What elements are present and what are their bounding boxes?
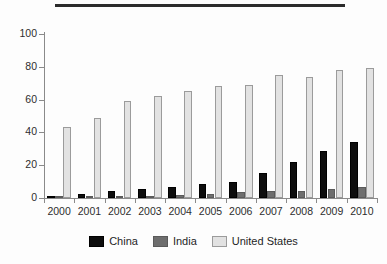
x-axis-tick-label: 2001	[72, 206, 106, 217]
x-axis-tick-label: 2006	[224, 206, 258, 217]
bar-united-states-2008	[306, 77, 314, 198]
bar-united-states-2010	[366, 68, 374, 198]
x-axis-tick-mark	[347, 198, 348, 203]
x-axis-tick-label: 2005	[194, 206, 228, 217]
x-axis-tick-label: 2010	[345, 206, 379, 217]
x-axis-line	[44, 198, 378, 199]
x-axis-tick-mark	[165, 198, 166, 203]
bar-china-2002	[108, 191, 116, 198]
bar-group	[138, 34, 162, 198]
x-axis-tick-mark	[195, 198, 196, 203]
bar-united-states-2005	[215, 86, 223, 198]
bar-group	[199, 34, 223, 198]
bar-india-2005	[207, 194, 215, 198]
x-axis-tick-label: 2000	[42, 206, 76, 217]
bar-group	[78, 34, 102, 198]
bar-china-2000	[47, 196, 55, 198]
bar-group	[320, 34, 344, 198]
y-axis-tick-label: 20	[3, 159, 37, 170]
bar-china-2006	[229, 182, 237, 198]
y-axis-tick-mark	[39, 165, 44, 166]
bar-united-states-2001	[94, 118, 102, 198]
legend-swatch-icon	[89, 236, 104, 247]
x-axis-tick-label: 2004	[163, 206, 197, 217]
y-axis-tick-label: 80	[3, 61, 37, 72]
x-axis-tick-mark	[105, 198, 106, 203]
chart-legend: ChinaIndiaUnited States	[0, 236, 387, 247]
legend-label: India	[173, 236, 197, 247]
bar-group	[259, 34, 283, 198]
bar-group	[350, 34, 374, 198]
x-axis-tick-mark	[316, 198, 317, 203]
legend-swatch-icon	[153, 236, 168, 247]
bar-chart-figure: 020406080100 ChinaIndiaUnited States 200…	[0, 0, 387, 264]
legend-entry-india[interactable]: India	[153, 236, 197, 247]
y-axis-tick-label: 100	[3, 28, 37, 39]
bar-india-2007	[267, 191, 275, 198]
bar-group	[108, 34, 132, 198]
x-axis-tick-label: 2009	[315, 206, 349, 217]
bar-china-2004	[168, 187, 176, 198]
bar-united-states-2006	[245, 85, 253, 198]
bar-china-2009	[320, 151, 328, 198]
x-axis-tick-mark	[135, 198, 136, 203]
bar-group	[47, 34, 71, 198]
y-axis-tick-mark	[39, 67, 44, 68]
bar-india-2001	[86, 196, 94, 198]
bar-group	[290, 34, 314, 198]
bar-united-states-2003	[154, 96, 162, 198]
bar-united-states-2009	[336, 70, 344, 198]
y-axis-tick-mark	[39, 34, 44, 35]
bar-china-2001	[78, 194, 86, 198]
bar-united-states-2007	[275, 75, 283, 198]
bar-india-2008	[298, 191, 306, 198]
bar-china-2003	[138, 189, 146, 198]
bar-india-2000	[55, 196, 63, 198]
bar-india-2004	[176, 195, 184, 198]
bar-china-2008	[290, 162, 298, 198]
bar-united-states-2004	[184, 91, 192, 198]
y-axis-tick-label: 40	[3, 126, 37, 137]
y-axis-tick-label: 0	[3, 192, 37, 203]
x-axis-tick-mark	[74, 198, 75, 203]
y-axis-tick-label: 60	[3, 94, 37, 105]
x-axis-tick-mark	[226, 198, 227, 203]
legend-label: China	[109, 236, 138, 247]
bar-china-2010	[350, 142, 358, 198]
y-axis-label-group: 020406080100	[0, 0, 37, 264]
x-axis-tick-label: 2003	[133, 206, 167, 217]
bar-india-2010	[358, 187, 366, 198]
bar-group	[229, 34, 253, 198]
x-axis-tick-label: 2007	[254, 206, 288, 217]
legend-swatch-icon	[212, 236, 227, 247]
bar-india-2006	[237, 192, 245, 198]
x-axis-tick-mark	[256, 198, 257, 203]
x-axis-tick-mark	[377, 198, 378, 203]
plot-area	[44, 34, 377, 198]
bar-india-2003	[146, 196, 154, 198]
bar-united-states-2000	[63, 127, 71, 198]
bar-china-2005	[199, 184, 207, 198]
legend-label: United States	[232, 236, 298, 247]
x-axis-tick-mark	[286, 198, 287, 203]
y-axis-tick-mark	[39, 100, 44, 101]
top-divider-rule	[55, 4, 345, 7]
x-axis-tick-label: 2002	[103, 206, 137, 217]
bar-india-2002	[116, 196, 124, 198]
bar-china-2007	[259, 173, 267, 198]
y-axis-tick-mark	[39, 132, 44, 133]
bar-group	[168, 34, 192, 198]
x-axis-tick-label: 2008	[284, 206, 318, 217]
legend-entry-united-states[interactable]: United States	[212, 236, 298, 247]
legend-entry-china[interactable]: China	[89, 236, 138, 247]
x-axis-tick-mark	[44, 198, 45, 203]
bar-india-2009	[328, 189, 336, 198]
bar-united-states-2002	[124, 101, 132, 198]
